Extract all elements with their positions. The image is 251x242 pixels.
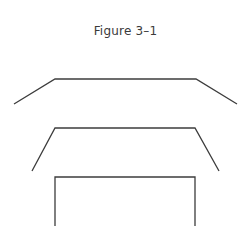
rectangular-bracket-shape xyxy=(55,177,195,226)
steep-flared-shape xyxy=(32,128,219,171)
wide-flared-shape xyxy=(14,79,237,104)
figure-diagram xyxy=(0,0,251,242)
